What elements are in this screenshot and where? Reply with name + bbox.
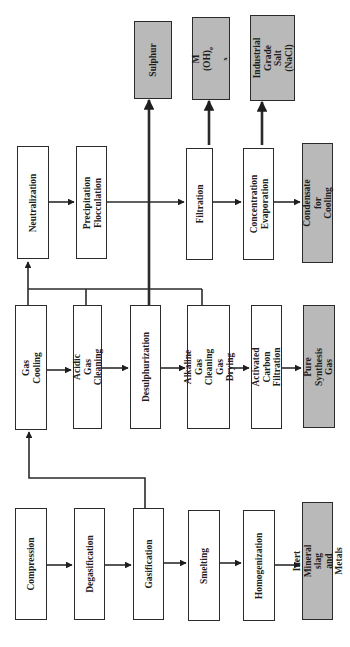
gas-cooling-box: Gas Cooling <box>15 305 47 430</box>
precipitation-flocculation-box: Precipitation Flocculation <box>76 146 107 259</box>
metal-hydroxide-sub-x: x <box>221 57 229 61</box>
smelting-box: Smelting <box>188 510 220 621</box>
desulphurization-label: Desulphurization <box>140 332 151 402</box>
metal-hydroxide-output-box: M (OH)e x <box>192 17 230 100</box>
acidic-gas-cleaning-box: Acidic Gas Cleaning <box>73 305 102 429</box>
metal-hydroxide-text: M (OH) <box>191 50 212 71</box>
inert-mineral-label: Inert Mineral slag and Metals <box>291 545 344 578</box>
activated-carbon-filtration-box: Activated Carbon Filtration <box>251 305 282 429</box>
pure-synthesis-gas-output-box: Pure Synthesis Gas <box>303 305 335 428</box>
neutralization-label: Neutralization <box>28 173 39 232</box>
concentration-evaporation-box: Concentration Evaporation <box>243 148 274 260</box>
homogenization-box: Homogenization <box>243 510 275 621</box>
condensate-output-box: Condensate for Cooling <box>302 143 333 263</box>
activated-carbon-filtration-label: Activated Carbon Filtration <box>251 347 283 386</box>
condensate-label: Condensate for Cooling <box>302 179 334 227</box>
filtration-label: Filtration <box>194 184 205 223</box>
industrial-salt-output-box: Industrial Grade Salt (NaCl) <box>250 15 295 101</box>
smelting-label: Smelting <box>199 548 210 584</box>
gasification-label: Gasification <box>143 539 154 588</box>
degasification-label: Degasification <box>84 535 95 593</box>
acidic-gas-cleaning-label: Acidic Gas Cleaning <box>72 349 104 385</box>
process-flow-diagram: Compression Degasification Gasification … <box>0 0 350 647</box>
industrial-salt-label: Industrial Grade Salt (NaCl) <box>252 38 294 79</box>
sulphur-label: Sulphur <box>148 43 159 76</box>
gasification-box: Gasification <box>133 508 164 620</box>
filtration-box: Filtration <box>186 148 213 260</box>
metal-hydroxide-sub-e: e <box>207 46 215 49</box>
compression-box: Compression <box>15 508 47 620</box>
alkaline-gas-cleaning-box: Alkaline Gas Cleaning Gas Drying <box>187 305 230 429</box>
concentration-evaporation-label: Concentration Evaporation <box>248 175 269 234</box>
precipitation-flocculation-label: Precipitation Flocculation <box>81 176 102 229</box>
homogenization-label: Homogenization <box>254 532 265 599</box>
neutralization-box: Neutralization <box>17 146 49 259</box>
desulphurization-box: Desulphurization <box>130 305 161 429</box>
pure-synthesis-gas-label: Pure Synthesis Gas <box>303 347 335 385</box>
sulphur-output-box: Sulphur <box>134 21 172 99</box>
alkaline-gas-cleaning-label: Alkaline Gas Cleaning Gas Drying <box>182 349 235 385</box>
inert-mineral-output-box: Inert Mineral slag and Metals <box>302 502 333 620</box>
metal-hydroxide-label: M (OH)e x <box>191 46 230 70</box>
compression-label: Compression <box>26 537 37 590</box>
degasification-box: Degasification <box>74 508 105 620</box>
gas-cooling-label: Gas Cooling <box>21 352 42 384</box>
